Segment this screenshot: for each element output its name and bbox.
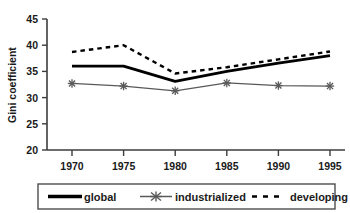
y-axis-title: Gini coefficient — [6, 47, 18, 123]
series-line-industrialized — [72, 83, 330, 91]
series-industrialized — [68, 79, 334, 95]
data-point-industrialized-1995 — [326, 82, 334, 90]
y-axis-tick-labels: 45 40 35 30 25 20 — [26, 13, 38, 156]
x-axis-tick-labels: 1970 1975 1980 1985 1990 1995 — [60, 160, 342, 172]
x-tick-label-1980: 1980 — [164, 160, 188, 172]
legend-label-global: global — [84, 191, 116, 203]
data-point-industrialized-1970 — [68, 79, 76, 87]
y-tick-label-30: 30 — [26, 92, 38, 104]
x-tick-label-1990: 1990 — [267, 160, 291, 172]
series-developing — [72, 45, 330, 73]
y-axis-title-text: Gini coefficient — [6, 47, 18, 123]
legend-label-developing: developing — [290, 191, 348, 203]
x-tick-label-1995: 1995 — [318, 160, 342, 172]
y-tick-label-45: 45 — [26, 13, 38, 25]
chart-canvas: Gini coefficient 45 40 35 30 25 20 — [0, 0, 350, 213]
gini-coefficient-line-chart: Gini coefficient 45 40 35 30 25 20 — [0, 0, 350, 213]
y-tick-label-35: 35 — [26, 65, 38, 77]
y-tick-label-25: 25 — [26, 118, 38, 130]
data-point-industrialized-1990 — [274, 81, 282, 89]
legend-label-industrialized: industrialized — [175, 191, 246, 203]
x-axis-ticks — [72, 150, 330, 156]
series-line-developing — [72, 45, 330, 73]
y-tick-label-20: 20 — [26, 144, 38, 156]
data-series-layer — [68, 45, 334, 95]
x-tick-label-1985: 1985 — [215, 160, 239, 172]
chart-legend: global industrialized developing — [38, 184, 348, 209]
series-line-global — [72, 56, 330, 82]
data-point-industrialized-1980 — [171, 87, 179, 95]
data-point-industrialized-1985 — [223, 79, 231, 87]
legend-star-marker-icon — [150, 192, 162, 202]
x-tick-label-1975: 1975 — [112, 160, 136, 172]
x-tick-label-1970: 1970 — [60, 160, 84, 172]
data-point-industrialized-1975 — [119, 82, 127, 90]
y-tick-label-40: 40 — [26, 39, 38, 51]
series-global — [72, 56, 330, 82]
